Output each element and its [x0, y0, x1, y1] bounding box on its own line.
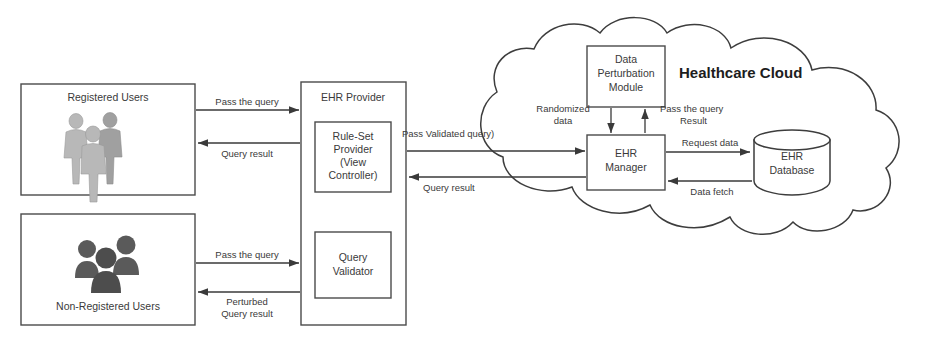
edge-request-data-label: Request data	[682, 137, 739, 148]
data-perturbation-line2: Perturbation	[597, 67, 654, 79]
architecture-diagram: Registered Users Non-Registered Users	[0, 0, 934, 345]
edge-pass-validated-query-label: Pass Validated query)	[402, 128, 494, 139]
edge-registered-pass-query-label: Pass the query	[215, 96, 279, 107]
registered-users-node: Registered Users	[21, 84, 195, 202]
ehr-provider-label: EHR Provider	[321, 91, 386, 103]
data-perturbation-line1: Data	[615, 53, 637, 65]
ehr-database-line1: EHR	[781, 150, 804, 162]
edge-nonregistered-perturbed-line1: Perturbed	[226, 296, 268, 307]
rule-set-provider-line3: (View	[340, 156, 366, 168]
non-registered-users-label: Non-Registered Users	[56, 300, 160, 312]
edge-data-fetch-label: Data fetch	[690, 186, 733, 197]
edge-registered-query-result: Query result	[198, 143, 300, 159]
ehr-manager-line1: EHR	[615, 147, 638, 159]
edge-nonregistered-pass-query-label: Pass the query	[215, 249, 279, 260]
data-perturbation-module-node: Data Perturbation Module	[587, 46, 665, 107]
edge-randomized-data-line1: Randomized	[536, 103, 589, 114]
edge-nonregistered-perturbed-line2: Query result	[221, 308, 273, 319]
query-validator-line2: Validator	[333, 265, 374, 277]
edge-nonregistered-perturbed-result: Perturbed Query result	[198, 292, 300, 319]
healthcare-cloud-label: Healthcare Cloud	[679, 64, 802, 81]
registered-users-label: Registered Users	[67, 91, 148, 103]
ehr-provider-node: EHR Provider Rule-Set Provider (View Con…	[301, 82, 406, 325]
rule-set-provider-line1: Rule-Set	[333, 130, 374, 142]
data-perturbation-line3: Module	[609, 81, 644, 93]
ehr-database-line2: Database	[770, 164, 815, 176]
ehr-manager-node: EHR Manager	[587, 135, 665, 190]
edge-nonregistered-pass-query: Pass the query	[196, 249, 299, 263]
edge-registered-pass-query: Pass the query	[196, 96, 299, 110]
edge-pass-query-result-line2: Result	[680, 115, 707, 126]
edge-registered-query-result-label: Query result	[221, 148, 273, 159]
ehr-manager-line2: Manager	[605, 161, 647, 173]
edge-pass-query-result-line1: Pass the query	[660, 103, 724, 114]
non-registered-users-node: Non-Registered Users	[21, 214, 195, 325]
query-validator-line1: Query	[339, 251, 368, 263]
edge-provider-query-result-label: Query result	[423, 182, 475, 193]
rule-set-provider-line2: Provider	[333, 143, 373, 155]
edge-randomized-data-line2: data	[554, 115, 573, 126]
cylinder-database-icon: EHR Database	[754, 130, 830, 195]
rule-set-provider-line4: Controller)	[328, 169, 377, 181]
